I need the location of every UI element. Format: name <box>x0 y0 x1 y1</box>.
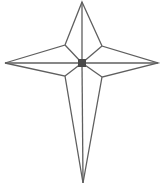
star-diagram <box>0 0 163 187</box>
spoke-bottom <box>82 63 83 183</box>
center-square <box>78 59 86 67</box>
star-spokes <box>5 2 158 183</box>
